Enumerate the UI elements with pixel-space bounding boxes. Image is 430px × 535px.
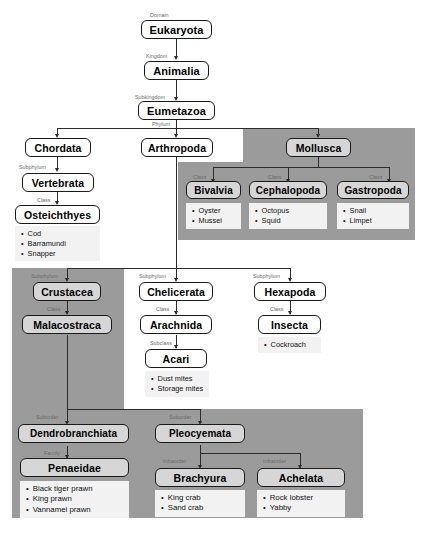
- list-item: Yabby: [263, 503, 340, 513]
- list-item: Limpet: [343, 216, 404, 226]
- list-item: Barramundi: [21, 239, 95, 249]
- examples-list-achelata: Rock lobster Yabby: [263, 493, 340, 514]
- examples-list-osteichthyes: Cod Barramundi Snapper: [21, 229, 95, 258]
- node-bivalvia[interactable]: Bivalvia: [186, 181, 241, 199]
- arthropoda-subphylum-bus: [67, 268, 291, 269]
- rank-label-class-malacostraca: Class: [47, 306, 60, 312]
- arrow-vertebrata: [55, 168, 59, 172]
- list-item: Storage mites: [151, 384, 204, 394]
- mollusca-class-bus: [213, 167, 390, 168]
- node-achelata[interactable]: Achelata: [257, 468, 345, 487]
- examples-osteichthyes: Cod Barramundi Snapper: [15, 226, 100, 261]
- rank-label-class-insecta: Class: [270, 306, 283, 312]
- connector-malacostraca-bus: [67, 335, 68, 409]
- rank-label-phylum: Phylum: [152, 121, 170, 127]
- node-brachyura[interactable]: Brachyura: [155, 468, 245, 487]
- examples-list-insecta: Cockroach: [264, 340, 316, 350]
- pleocyemata-infraorder-bus: [200, 453, 301, 454]
- list-item: Snail: [343, 206, 404, 216]
- rank-label-subclass-acari: Subclass: [150, 340, 172, 346]
- examples-bivalvia: Oyster Mussel: [186, 203, 241, 229]
- connector-eukaryota-animalia: [176, 38, 177, 58]
- node-gastropoda[interactable]: Gastropoda: [337, 181, 409, 199]
- examples-list-brachyura: King crab Sand crab: [161, 493, 240, 514]
- phylum-bus: [57, 128, 319, 129]
- list-item: Cod: [21, 229, 95, 239]
- examples-list-acari: Dust mites Storage mites: [151, 374, 204, 394]
- connector-arthropoda-bus: [176, 157, 177, 269]
- list-item: Mussel: [192, 216, 236, 226]
- node-cephalopoda[interactable]: Cephalopoda: [249, 181, 327, 199]
- arrow-animalia: [174, 56, 178, 60]
- rank-label-subphylum-chelicerata: Subphylum: [139, 273, 166, 279]
- node-eukaryota[interactable]: Eukaryota: [141, 20, 212, 39]
- examples-achelata: Rock lobster Yabby: [257, 490, 345, 517]
- examples-list-penaeidae: Black tiger prawn King prawn Vannamei pr…: [26, 484, 124, 515]
- examples-penaeidae: Black tiger prawn King prawn Vannamei pr…: [20, 481, 129, 518]
- list-item: King prawn: [26, 494, 124, 504]
- rank-label-infraorder-brachyura: Infraorder: [163, 458, 186, 464]
- rank-label-class-arachnida: Class: [156, 306, 169, 312]
- rank-label-class-gastropoda: Class: [369, 174, 382, 180]
- examples-insecta: Cockroach: [258, 337, 321, 353]
- list-item: Black tiger prawn: [26, 484, 124, 494]
- node-hexapoda[interactable]: Hexapoda: [254, 282, 326, 301]
- rank-label-subphylum-vertebrata: Subphylum: [19, 164, 46, 170]
- list-item: Oyster: [192, 206, 236, 216]
- rank-label-class-cephalopoda: Class: [268, 174, 281, 180]
- list-item: Rock lobster: [263, 493, 340, 503]
- node-malacostraca[interactable]: Malacostraca: [22, 315, 112, 334]
- node-penaeidae[interactable]: Penaeidae: [20, 458, 129, 477]
- node-eumetazoa[interactable]: Eumetazoa: [138, 101, 215, 120]
- examples-list-bivalvia: Oyster Mussel: [192, 206, 236, 226]
- examples-list-gastropoda: Snail Limpet: [343, 206, 404, 226]
- rank-label-suborder-dendrobranchiata: Suborder: [36, 414, 58, 420]
- node-pleocyemata[interactable]: Pleocyemata: [155, 424, 245, 443]
- taxonomy-diagram: Domain Kingdom Subkingdom Phylum Subphyl…: [0, 0, 430, 535]
- list-item: Vannamei prawn: [26, 505, 124, 515]
- node-acari[interactable]: Acari: [145, 349, 207, 368]
- rank-label-class-osteichthyes: Class: [37, 197, 50, 203]
- list-item: Squid: [255, 216, 322, 226]
- rank-label-subkingdom: Subkingdom: [135, 94, 165, 100]
- rank-label-subphylum-hexapoda: Subphylum: [253, 273, 280, 279]
- list-item: Octopus: [255, 206, 322, 216]
- examples-cephalopoda: Octopus Squid: [249, 203, 327, 229]
- list-item: Sand crab: [161, 503, 240, 513]
- malacostraca-suborder-bus: [67, 409, 201, 410]
- examples-acari: Dust mites Storage mites: [145, 371, 209, 397]
- rank-label-suborder-pleocyemata: Suborder: [169, 414, 191, 420]
- rank-label-infraorder-achelata: Infraorder: [263, 458, 286, 464]
- rank-label-kingdom: Kingdom: [146, 53, 167, 59]
- list-item: Cockroach: [264, 340, 316, 350]
- node-dendrobranchiata[interactable]: Dendrobranchiata: [18, 424, 129, 443]
- node-insecta[interactable]: Insecta: [258, 315, 321, 334]
- list-item: King crab: [161, 493, 240, 503]
- node-vertebrata[interactable]: Vertebrata: [22, 173, 94, 192]
- examples-brachyura: King crab Sand crab: [155, 490, 245, 517]
- node-chordata[interactable]: Chordata: [25, 138, 91, 157]
- node-arachnida[interactable]: Arachnida: [140, 315, 212, 334]
- examples-gastropoda: Snail Limpet: [337, 203, 409, 229]
- rank-label-domain: Domain: [150, 12, 169, 18]
- node-arthropoda[interactable]: Arthropoda: [141, 138, 213, 157]
- list-item: Snapper: [21, 249, 95, 259]
- node-chelicerata[interactable]: Chelicerata: [139, 282, 213, 301]
- examples-list-cephalopoda: Octopus Squid: [255, 206, 322, 226]
- node-osteichthyes[interactable]: Osteichthyes: [15, 205, 100, 224]
- rank-label-subphylum-crustacea: Subphylum: [31, 273, 58, 279]
- connector-animalia-eumetazoa: [176, 79, 177, 99]
- node-mollusca[interactable]: Mollusca: [286, 138, 351, 157]
- rank-label-family-penaeidae: Family: [44, 450, 60, 456]
- node-crustacea[interactable]: Crustacea: [33, 282, 101, 301]
- rank-label-class-bivalvia: Class: [193, 174, 206, 180]
- node-animalia[interactable]: Animalia: [144, 61, 209, 80]
- list-item: Dust mites: [151, 374, 204, 384]
